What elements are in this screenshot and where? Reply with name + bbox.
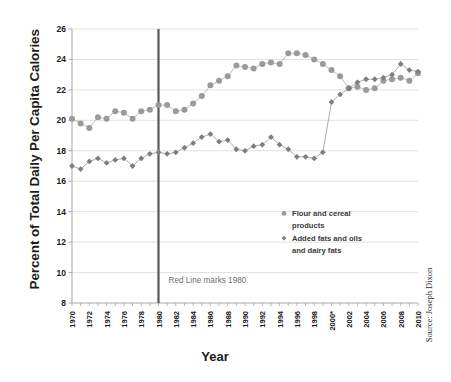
data-point (95, 155, 101, 161)
data-point (173, 149, 179, 155)
data-point (285, 50, 291, 56)
chart-legend: Flour and cerealproductsAdded fats and o… (282, 209, 362, 255)
data-point (121, 110, 127, 116)
data-point (294, 50, 300, 56)
x-tick-label: 1998 (310, 311, 319, 328)
data-point (268, 59, 274, 65)
x-tick-label: 2000* (328, 311, 337, 331)
data-series-group (69, 50, 421, 172)
data-point (147, 151, 153, 157)
x-tick-label: 1988 (224, 311, 233, 328)
data-point (303, 154, 309, 160)
data-point (372, 76, 378, 82)
x-axis-group: 1970197219741976197819801982198419861988… (68, 303, 423, 331)
data-point (251, 143, 257, 149)
x-tick-label: 1974 (103, 310, 112, 328)
data-point (398, 75, 404, 81)
data-point (233, 63, 239, 69)
y-tick-label: 22 (57, 85, 67, 95)
data-point (251, 66, 257, 72)
plot-area: 8101214161820222426 19701972197419761978… (0, 0, 451, 382)
legend-marker-fats (282, 236, 287, 241)
data-point (311, 56, 317, 62)
data-point (69, 163, 75, 169)
x-tick-label: 1996 (293, 311, 302, 328)
data-point (363, 76, 369, 82)
data-point (242, 148, 248, 154)
data-point (225, 73, 231, 79)
data-point (363, 87, 369, 93)
x-tick-label: 2008 (397, 311, 406, 328)
x-tick-label: 2006 (379, 311, 388, 328)
data-point (303, 52, 309, 58)
data-point (320, 149, 326, 155)
data-point (320, 61, 326, 67)
data-point (355, 79, 361, 85)
red-line-annotation-label: Red Line marks 1980 (169, 276, 247, 285)
data-point (112, 157, 118, 163)
y-tick-label: 12 (57, 237, 67, 247)
data-point (406, 78, 412, 84)
x-tick-label: 1994 (276, 310, 285, 328)
legend-label: and dairy fats (292, 246, 341, 255)
x-tick-label: 1978 (137, 311, 146, 328)
x-tick-label: 1982 (172, 311, 181, 328)
chart-annotations: Red Line marks 1980 (169, 276, 247, 285)
data-point (95, 114, 101, 120)
x-tick-label: 1980 (155, 311, 164, 328)
legend-label: products (292, 221, 325, 230)
data-point (311, 155, 317, 161)
x-tick-label: 1992 (258, 311, 267, 328)
x-tick-label: 1972 (85, 311, 94, 328)
y-tick-label: 16 (57, 176, 67, 186)
data-point (156, 149, 162, 155)
x-tick-label: 2010 (414, 311, 423, 328)
x-tick-label: 2002 (345, 311, 354, 328)
legend-label: Added fats and oils (292, 234, 362, 243)
data-point (130, 116, 136, 122)
data-point (337, 73, 343, 79)
data-point (112, 108, 118, 114)
data-point (242, 64, 248, 70)
data-point (69, 116, 75, 122)
x-tick-label: 2004 (362, 310, 371, 328)
data-point (147, 107, 153, 113)
data-point (190, 140, 196, 146)
data-point (104, 160, 110, 166)
data-point (216, 78, 222, 84)
data-point (329, 67, 335, 73)
y-tick-label: 24 (57, 54, 67, 64)
x-tick-label: 1984 (189, 310, 198, 328)
data-point (164, 151, 170, 157)
data-point (199, 93, 205, 99)
chart-figure: Percent of Total Daily Per Capita Calori… (0, 0, 451, 382)
legend-marker-flour (282, 211, 287, 216)
data-point (199, 134, 205, 140)
data-point (86, 125, 92, 131)
data-point (78, 120, 84, 126)
data-point (406, 67, 412, 73)
data-point (156, 102, 162, 108)
x-tick-label: 1970 (68, 311, 77, 328)
line-chart-svg: 8101214161820222426 19701972197419761978… (0, 0, 451, 382)
x-tick-label: 1976 (120, 311, 129, 328)
data-point (181, 107, 187, 113)
y-tick-label: 18 (57, 146, 67, 156)
y-tick-label: 14 (57, 207, 67, 217)
legend-label: Flour and cereal (292, 209, 351, 218)
data-point (190, 101, 196, 107)
data-point (164, 102, 170, 108)
data-point (104, 116, 110, 122)
series-2 (69, 61, 421, 172)
data-point (207, 82, 213, 88)
data-point (259, 61, 265, 67)
data-point (138, 108, 144, 114)
series-1 (69, 50, 421, 131)
y-tick-label: 20 (57, 115, 67, 125)
x-tick-label: 1986 (206, 311, 215, 328)
data-point (277, 61, 283, 67)
y-tick-label: 8 (61, 298, 66, 308)
y-tick-label: 26 (57, 24, 67, 34)
x-tick-label: 1990 (241, 311, 250, 328)
y-tick-label: 10 (57, 268, 67, 278)
